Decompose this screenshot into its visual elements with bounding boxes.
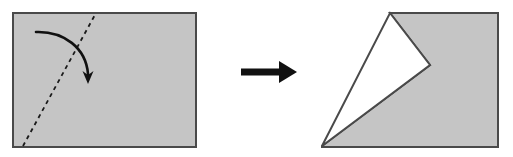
paper-folding-diagram	[0, 0, 513, 157]
before-fold-panel	[13, 13, 196, 147]
transition-arrowhead-icon	[279, 61, 297, 83]
transition-arrow-group	[241, 61, 297, 83]
diagram-canvas	[0, 0, 513, 157]
after-fold-panel	[322, 13, 498, 147]
